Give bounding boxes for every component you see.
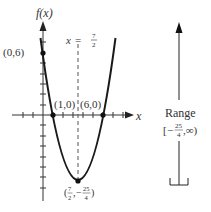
svg-text:2: 2: [92, 41, 96, 49]
y-axis: [40, 21, 47, 201]
svg-text:x: x: [65, 34, 71, 46]
range-interval: [ − 25 4 ,∞): [163, 122, 198, 139]
svg-text:,∞): ,∞): [183, 124, 198, 137]
point-y-intercept: [40, 50, 45, 55]
svg-text:7: 7: [68, 185, 72, 192]
x-axis: [12, 112, 134, 119]
svg-text:7: 7: [92, 32, 96, 40]
parabola-diagram: f(x) x x = 7 2 (0,6) (1,0) (6,0) ( 7 2 ,…: [0, 0, 211, 212]
svg-text:25: 25: [83, 185, 90, 192]
vertex-label: ( 7 2 , − 25 4 ): [64, 185, 94, 201]
root-2-label: (6,0): [80, 98, 101, 111]
svg-text:25: 25: [175, 122, 183, 130]
function-label: f(x): [36, 6, 53, 20]
svg-text:−: −: [167, 124, 173, 136]
point-root-1: [50, 112, 55, 117]
axis-of-symmetry-label: x = 7 2: [65, 32, 97, 49]
range-arrow-up-icon: [176, 22, 183, 33]
point-root-2: [100, 112, 105, 117]
point-vertex: [75, 178, 80, 183]
x-axis-arrow-icon: [125, 112, 134, 119]
range-title: Range: [165, 106, 196, 120]
root-1-label: (1,0): [54, 98, 75, 111]
x-axis-label: x: [135, 109, 142, 123]
svg-text:4: 4: [177, 131, 181, 139]
svg-text:=: =: [75, 34, 81, 46]
y-axis-arrow-icon: [40, 21, 47, 31]
svg-text:4: 4: [85, 194, 89, 201]
svg-text:−: −: [76, 187, 82, 198]
svg-text:2: 2: [68, 194, 71, 201]
y-intercept-label: (0,6): [3, 46, 24, 59]
svg-text:): ): [91, 187, 94, 199]
range-indicator: Range [ − 25 4 ,∞): [163, 22, 198, 185]
